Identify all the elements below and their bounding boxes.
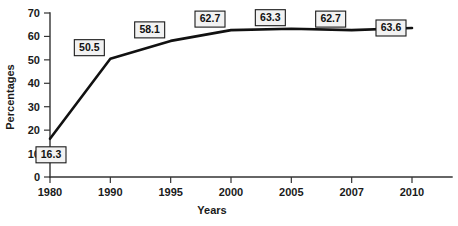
x-tick-label: 2005	[279, 186, 303, 198]
y-tick-label: 40	[28, 77, 40, 89]
x-tick-label: 2010	[400, 186, 424, 198]
y-tick-label: 50	[28, 54, 40, 66]
data-label-value: 62.7	[320, 12, 341, 24]
x-tick-group: 1980199019952000200520072010	[38, 177, 424, 198]
data-label-value: 16.3	[41, 148, 62, 160]
y-tick-label: 30	[28, 101, 40, 113]
x-axis-title: Years	[197, 204, 226, 216]
x-axis: 1980199019952000200520072010	[38, 177, 452, 198]
data-label-value: 63.3	[260, 11, 281, 23]
y-tick-label: 20	[28, 124, 40, 136]
data-label-value: 62.7	[200, 12, 221, 24]
x-tick-label: 1980	[38, 186, 62, 198]
x-tick-label: 2000	[219, 186, 243, 198]
x-tick-label: 2007	[339, 186, 363, 198]
data-label-value: 63.6	[381, 21, 402, 33]
x-tick-label: 1990	[98, 186, 122, 198]
x-tick-label: 1995	[158, 186, 182, 198]
data-label-value: 58.1	[139, 23, 160, 35]
chart-canvas: 010203040506070 198019901995200020052007…	[0, 0, 458, 226]
y-axis-title: Percentages	[4, 64, 16, 129]
y-tick-label: 70	[28, 7, 40, 19]
data-label-value: 50.5	[79, 41, 100, 53]
line-chart-figure: 010203040506070 198019901995200020052007…	[0, 0, 458, 226]
y-tick-label: 0	[34, 171, 40, 183]
y-tick-label: 60	[28, 30, 40, 42]
